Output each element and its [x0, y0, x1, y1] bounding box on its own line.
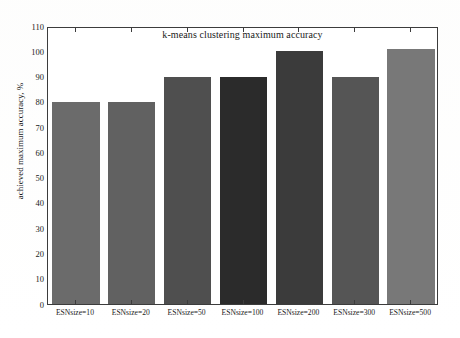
bar-esnsize-100 [220, 77, 267, 304]
x-tick-mark-top-6 [410, 28, 411, 32]
x-tick-mark-bottom-3 [243, 300, 244, 304]
x-tick-label-esnsize-10: ESNsize=10 [47, 308, 103, 317]
chart-figure: 0102030405060708090100110 achieved maxim… [0, 0, 460, 338]
x-tick-label-esnsize-300: ESNsize=300 [326, 308, 382, 317]
bar-esnsize-10 [52, 102, 99, 304]
bar-esnsize-20 [108, 102, 155, 304]
x-tick-mark-top-3 [243, 28, 244, 32]
x-tick-mark-bottom-4 [298, 300, 299, 304]
plot-area [47, 27, 438, 305]
x-tick-mark-bottom-0 [75, 300, 76, 304]
y-tick-label-110: 110 [14, 23, 44, 32]
bar-esnsize-500 [387, 49, 434, 304]
y-axis-label: achieved maximum accuracy, % [15, 66, 25, 216]
x-tick-mark-top-0 [75, 28, 76, 32]
bars-layer [48, 28, 437, 304]
x-tick-label-esnsize-200: ESNsize=200 [270, 308, 326, 317]
y-tick-label-0: 0 [14, 301, 44, 310]
y-axis-tick-labels: 0102030405060708090100110 [8, 0, 44, 338]
x-tick-mark-bottom-2 [187, 300, 188, 304]
bar-esnsize-50 [164, 77, 211, 304]
y-tick-label-100: 100 [14, 48, 44, 57]
x-tick-mark-bottom-6 [410, 300, 411, 304]
x-tick-label-esnsize-500: ESNsize=500 [382, 308, 438, 317]
y-tick-label-10: 10 [14, 275, 44, 284]
bar-esnsize-300 [332, 77, 379, 304]
x-tick-mark-bottom-1 [131, 300, 132, 304]
bar-esnsize-200 [276, 51, 323, 304]
x-tick-mark-top-1 [131, 28, 132, 32]
x-tick-mark-top-5 [354, 28, 355, 32]
x-tick-label-esnsize-20: ESNsize=20 [103, 308, 159, 317]
x-tick-label-esnsize-100: ESNsize=100 [215, 308, 271, 317]
y-tick-label-30: 30 [14, 225, 44, 234]
x-tick-mark-top-2 [187, 28, 188, 32]
x-tick-mark-bottom-5 [354, 300, 355, 304]
y-tick-label-20: 20 [14, 250, 44, 259]
x-tick-label-esnsize-50: ESNsize=50 [159, 308, 215, 317]
x-tick-mark-top-4 [298, 28, 299, 32]
